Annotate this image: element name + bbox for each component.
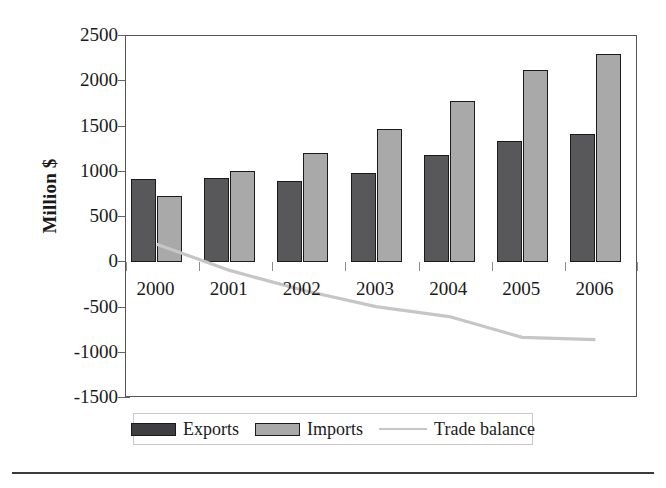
legend-label-imports: Imports	[307, 419, 363, 440]
y-axis-tick-label: 1000	[30, 160, 118, 182]
x-axis-tick-label: 2004	[429, 278, 467, 300]
chart-legend: Exports Imports Trade balance	[133, 413, 533, 445]
bar-exports	[570, 134, 595, 262]
y-axis-tick-label: 2500	[30, 24, 118, 46]
y-axis-tick-label: -500	[30, 296, 118, 318]
bar-imports	[596, 54, 621, 263]
x-axis-tick-mark	[126, 262, 127, 271]
x-axis-tick-mark	[419, 262, 420, 271]
bar-imports	[157, 196, 182, 262]
bar-exports	[131, 179, 156, 262]
x-axis-tick-mark	[272, 262, 273, 271]
x-axis-tick-mark	[345, 262, 346, 271]
y-axis-tick-label: -1500	[30, 386, 118, 408]
legend-item-exports: Exports	[131, 419, 239, 440]
bar-exports	[497, 141, 522, 263]
bar-imports	[450, 101, 475, 263]
y-axis-tick-label: 0	[30, 250, 118, 272]
plot-area	[125, 35, 637, 397]
chart-figure: Million $ 25002000150010005000-500-1000-…	[0, 0, 666, 488]
y-axis-tick-label: 500	[30, 205, 118, 227]
y-axis-tick-label: -1000	[30, 341, 118, 363]
bar-exports	[277, 181, 302, 262]
x-axis-tick-mark	[199, 262, 200, 271]
x-axis-tick-label: 2003	[356, 278, 394, 300]
bar-imports	[377, 129, 402, 262]
y-axis-tick-label: 1500	[30, 115, 118, 137]
x-axis-tick-label: 2006	[575, 278, 613, 300]
x-axis-tick-label: 2005	[502, 278, 540, 300]
bar-exports	[424, 155, 449, 263]
bar-imports	[230, 171, 255, 262]
exports-swatch-icon	[131, 423, 176, 436]
legend-label-exports: Exports	[183, 419, 239, 440]
trade-balance-line-icon	[379, 428, 427, 430]
x-axis-tick-mark	[492, 262, 493, 271]
x-axis-tick-label: 2001	[210, 278, 248, 300]
bar-exports	[204, 178, 229, 262]
legend-item-imports: Imports	[255, 419, 363, 440]
x-axis-tick-mark	[637, 262, 638, 271]
legend-label-trade-balance: Trade balance	[434, 419, 535, 440]
y-axis-tick-label: 2000	[30, 69, 118, 91]
x-axis-tick-label: 2000	[137, 278, 175, 300]
bar-imports	[303, 153, 328, 262]
bar-imports	[523, 70, 548, 262]
x-axis-tick-label: 2002	[283, 278, 321, 300]
bar-exports	[351, 173, 376, 262]
imports-swatch-icon	[255, 423, 300, 436]
x-axis-tick-mark	[565, 262, 566, 271]
y-axis-tick-mark	[118, 397, 130, 398]
legend-item-trade-balance: Trade balance	[379, 419, 535, 440]
footer-rule	[12, 472, 654, 474]
